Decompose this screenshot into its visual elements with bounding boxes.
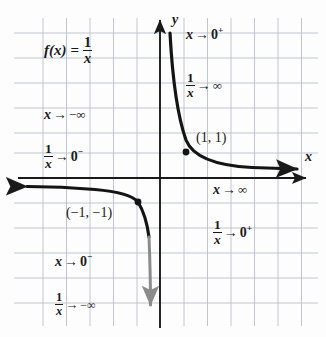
limit-value: 0 xyxy=(71,149,78,164)
fraction-numerator: 1 xyxy=(83,35,92,50)
x-variable: x xyxy=(186,27,193,42)
point-label-neg1-neg1: (−1, −1) xyxy=(66,206,112,220)
fraction-numerator: 1 xyxy=(213,218,222,232)
reciprocal-function-figure: f(x)= 1 x x→0+ 1 x →∞ x→−∞ 1 x →0− (1, 1… xyxy=(0,0,326,337)
annotation-x-to-zero-plus: x→0+ xyxy=(186,26,223,42)
y-axis-label: y xyxy=(172,13,178,27)
limit-value: 0 xyxy=(211,27,218,42)
curve-negative-descent xyxy=(138,202,149,237)
right-arrow-icon: → xyxy=(220,183,238,197)
annotation-recip-to-zero-minus: 1 x →0− xyxy=(44,143,83,172)
x-axis-label: x xyxy=(305,150,312,164)
limit-value: 0 xyxy=(80,254,87,269)
fraction-numerator: 1 xyxy=(44,142,53,156)
annotation-x-to-zero-minus: x→0− xyxy=(55,253,92,269)
annotation-x-to-infinity: x→∞ xyxy=(213,183,247,197)
limit-value: ∞ xyxy=(213,79,222,93)
curve-negative-asymptote-gray xyxy=(149,237,151,305)
x-variable: x xyxy=(55,254,62,269)
one-over-x-fraction: 1 x xyxy=(44,142,53,171)
annotation-recip-to-neg-infinity: 1 x →−∞ xyxy=(55,292,96,319)
function-name: f(x) xyxy=(44,42,67,58)
point-1-1 xyxy=(183,149,190,156)
right-arrow-icon: → xyxy=(63,298,80,311)
point-label-1-1: (1, 1) xyxy=(196,131,226,145)
limit-value: ∞ xyxy=(238,183,247,197)
limit-value: −∞ xyxy=(69,108,85,122)
fraction-denominator: x xyxy=(213,232,222,247)
annotation-recip-to-infinity: 1 x →∞ xyxy=(186,72,222,101)
one-over-x-fraction: 1 x xyxy=(213,218,222,247)
right-arrow-icon: → xyxy=(51,108,69,122)
fraction-numerator: 1 xyxy=(55,291,63,304)
x-variable: x xyxy=(213,182,220,197)
curve-negative-branch xyxy=(27,187,138,203)
limit-superscript: − xyxy=(78,147,83,157)
fraction-denominator: x xyxy=(44,156,53,171)
one-over-x-fraction: 1 x xyxy=(83,35,92,66)
right-arrow-icon: → xyxy=(62,255,80,269)
limit-value: 0 xyxy=(240,225,247,240)
fraction-numerator: 1 xyxy=(186,71,195,85)
fraction-denominator: x xyxy=(83,50,92,66)
x-variable: x xyxy=(44,107,51,122)
right-arrow-icon: → xyxy=(195,79,213,93)
right-arrow-icon: → xyxy=(222,226,240,240)
right-arrow-icon: → xyxy=(53,150,71,164)
annotation-x-to-neg-infinity: x→−∞ xyxy=(44,108,85,122)
limit-value: −∞ xyxy=(80,298,95,312)
equals-sign: = xyxy=(67,42,84,58)
one-over-x-fraction: 1 x xyxy=(186,71,195,100)
fraction-denominator: x xyxy=(186,85,195,100)
limit-superscript: − xyxy=(87,252,92,262)
limit-superscript: + xyxy=(247,223,252,233)
one-over-x-fraction: 1 x xyxy=(55,291,63,318)
limit-superscript: + xyxy=(218,25,223,35)
annotation-recip-to-zero-plus: 1 x →0+ xyxy=(213,219,252,248)
fraction-denominator: x xyxy=(55,304,63,318)
right-arrow-icon: → xyxy=(193,28,211,42)
point-neg1-neg1 xyxy=(135,199,142,206)
function-title: f(x)= 1 x xyxy=(44,36,92,67)
